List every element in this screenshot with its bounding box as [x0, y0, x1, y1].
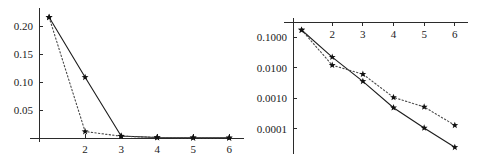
- series-line-solid: [302, 30, 455, 147]
- star-marker: [390, 94, 397, 101]
- x-tick-label: 4: [154, 143, 160, 155]
- star-marker: [82, 74, 89, 81]
- y-tick-label: 0.0100: [257, 62, 288, 74]
- x-tick-label: 5: [421, 28, 427, 40]
- star-marker: [451, 122, 458, 129]
- y-tick-label: 0.1000: [257, 31, 288, 43]
- chart-panel-log: 0.10000.01000.00100.000123456: [252, 0, 504, 163]
- x-tick-label: 3: [360, 28, 366, 40]
- log-plot-svg: 0.10000.01000.00100.000123456: [252, 0, 504, 163]
- y-tick-label: 0.10: [14, 76, 34, 88]
- x-tick-label: 5: [190, 143, 196, 155]
- star-marker: [226, 134, 233, 141]
- x-tick-label: 6: [452, 28, 458, 40]
- x-tick-label: 4: [391, 28, 397, 40]
- series-line-solid: [49, 17, 229, 138]
- y-tick-label: 0.20: [14, 20, 34, 32]
- x-tick-label: 2: [329, 28, 335, 40]
- x-tick-label: 3: [118, 143, 124, 155]
- star-marker: [82, 128, 89, 135]
- x-tick-label: 2: [82, 143, 88, 155]
- series-line-dotted: [302, 30, 455, 125]
- star-marker: [154, 134, 161, 141]
- y-tick-label: 0.05: [14, 104, 34, 116]
- y-tick-label: 0.15: [14, 48, 34, 60]
- star-marker: [359, 71, 366, 78]
- y-tick-label: 0.0010: [257, 92, 288, 104]
- y-tick-label: 0.0001: [257, 123, 287, 135]
- figure-container: 0.050.100.150.2023456 0.10000.01000.0010…: [0, 0, 504, 163]
- star-marker: [451, 144, 458, 151]
- chart-panel-linear: 0.050.100.150.2023456: [0, 0, 252, 163]
- series-line-dotted: [49, 17, 229, 138]
- star-marker: [190, 134, 197, 141]
- x-tick-label: 6: [226, 143, 232, 155]
- linear-plot-svg: 0.050.100.150.2023456: [0, 0, 252, 163]
- star-marker: [46, 14, 53, 21]
